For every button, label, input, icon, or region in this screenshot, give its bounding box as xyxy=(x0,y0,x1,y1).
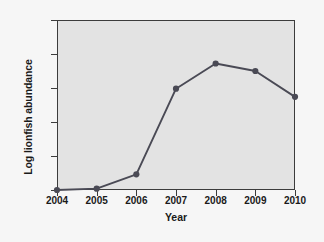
x-tick-mark xyxy=(97,190,98,196)
x-tick-label: 2004 xyxy=(37,195,77,206)
x-tick-mark xyxy=(57,190,58,196)
x-axis-ticks: 2004200520062007200820092010 xyxy=(0,0,324,242)
x-axis-title: Year xyxy=(57,211,295,223)
x-tick-mark xyxy=(176,190,177,196)
x-tick-mark xyxy=(295,190,296,196)
x-tick-mark xyxy=(216,190,217,196)
x-tick-label: 2009 xyxy=(235,195,275,206)
x-tick-mark xyxy=(255,190,256,196)
x-tick-label: 2007 xyxy=(156,195,196,206)
x-tick-mark xyxy=(136,190,137,196)
x-tick-label: 2008 xyxy=(196,195,236,206)
chart-figure: Log lionfish abundance 0.00.51.01.52.02.… xyxy=(0,0,324,242)
x-tick-label: 2006 xyxy=(116,195,156,206)
x-tick-label: 2010 xyxy=(275,195,315,206)
x-tick-label: 2005 xyxy=(77,195,117,206)
